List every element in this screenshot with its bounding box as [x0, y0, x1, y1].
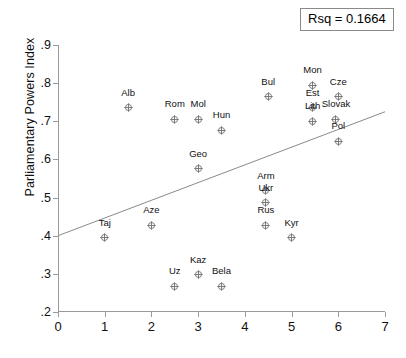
circle-cross-marker-icon	[264, 87, 273, 96]
x-tick-label: 4	[241, 319, 248, 334]
circle-cross-marker-icon	[194, 265, 203, 274]
data-point-label: Hun	[213, 110, 230, 120]
y-tick-label: .5	[41, 191, 51, 205]
data-point-label: Taj	[99, 218, 111, 228]
rsq-label: Rsq = 0.1664	[308, 11, 386, 26]
x-tick-mark	[151, 312, 152, 317]
data-point-label: Mon	[303, 65, 321, 75]
x-tick-label: 7	[381, 319, 388, 334]
y-tick-mark	[53, 198, 58, 199]
data-point-label: Alb	[121, 88, 135, 98]
data-point-label: Kyr	[284, 218, 298, 228]
data-point-label: Arm	[257, 171, 274, 181]
rsq-annotation-box: Rsq = 0.1664	[300, 8, 394, 31]
data-point-label: Kaz	[190, 255, 206, 265]
data-point-label: Rom	[165, 99, 185, 109]
circle-cross-marker-icon	[147, 216, 156, 225]
scatter-plot-figure: Rsq = 0.1664 Parliamentary Powers Index …	[0, 0, 406, 358]
y-tick-mark	[53, 159, 58, 160]
circle-cross-marker-icon	[261, 193, 270, 202]
x-tick-mark	[58, 312, 59, 317]
x-tick-mark	[245, 312, 246, 317]
y-tick-mark	[53, 236, 58, 237]
x-tick-label: 0	[54, 319, 61, 334]
data-point-label: Slovak	[322, 99, 351, 109]
circle-cross-marker-icon	[287, 228, 296, 237]
x-tick-label: 1	[101, 319, 108, 334]
data-point-label: Mol	[190, 99, 205, 109]
circle-cross-marker-icon	[170, 277, 179, 286]
circle-cross-marker-icon	[124, 98, 133, 107]
y-axis-title: Parliamentary Powers Index	[23, 17, 37, 217]
x-tick-mark	[198, 312, 199, 317]
circle-cross-marker-icon	[308, 112, 317, 121]
y-tick-mark	[53, 274, 58, 275]
data-point-label: Uz	[169, 266, 181, 276]
circle-cross-marker-icon	[194, 159, 203, 168]
y-tick-mark	[53, 121, 58, 122]
data-point-label: Cze	[330, 77, 347, 87]
x-tick-mark	[105, 312, 106, 317]
data-point-label: Geo	[189, 149, 207, 159]
x-tick-mark	[385, 312, 386, 317]
x-tick-label: 2	[148, 319, 155, 334]
y-tick-label: .7	[41, 114, 51, 128]
data-point-label: Ukr	[258, 183, 273, 193]
circle-cross-marker-icon	[334, 132, 343, 141]
circle-cross-marker-icon	[331, 110, 340, 119]
x-tick-label: 3	[195, 319, 202, 334]
circle-cross-marker-icon	[217, 277, 226, 286]
circle-cross-marker-icon	[308, 76, 317, 85]
x-tick-mark	[292, 312, 293, 317]
x-tick-label: 6	[335, 319, 342, 334]
y-tick-label: .3	[41, 267, 51, 281]
x-tick-mark	[338, 312, 339, 317]
y-tick-label: .8	[41, 76, 51, 90]
circle-cross-marker-icon	[261, 216, 270, 225]
data-point-label: Rus	[257, 205, 274, 215]
circle-cross-marker-icon	[334, 87, 343, 96]
y-tick-label: .2	[41, 305, 51, 319]
circle-cross-marker-icon	[170, 110, 179, 119]
data-point-label: Bul	[261, 77, 275, 87]
data-point-label: Lith	[305, 101, 320, 111]
y-tick-label: .4	[41, 229, 51, 243]
data-point-label: Aze	[143, 205, 159, 215]
circle-cross-marker-icon	[217, 121, 226, 130]
x-tick-label: 5	[288, 319, 295, 334]
plot-area: .2.3.4.5.6.7.8.9 01234567 AlbRomMolHunBu…	[58, 45, 385, 312]
data-point-label: Est	[306, 88, 320, 98]
y-tick-label: .6	[41, 152, 51, 166]
data-point-label: Bela	[212, 266, 231, 276]
data-point-label: Pol	[331, 121, 345, 131]
circle-cross-marker-icon	[100, 228, 109, 237]
y-tick-mark	[53, 45, 58, 46]
y-tick-mark	[53, 83, 58, 84]
circle-cross-marker-icon	[194, 110, 203, 119]
y-tick-label: .9	[41, 38, 51, 52]
